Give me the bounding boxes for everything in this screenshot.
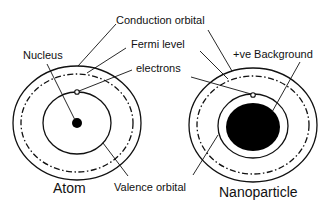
nanoparticle-electron (251, 93, 256, 98)
label-conduction-orbital: Conduction orbital (116, 14, 205, 26)
leader-valence-atom (103, 143, 128, 176)
leader-positive-background (272, 62, 300, 112)
leader-valence-nano (193, 135, 218, 175)
label-valence-orbital: Valence orbital (114, 181, 186, 193)
atom-nucleus (72, 118, 82, 128)
atom-vs-nanoparticle-diagram: Conduction orbital Fermi level electrons… (0, 0, 332, 205)
atom-electron (75, 90, 80, 95)
leader-conduction-nano (208, 30, 232, 71)
leader-fermi-atom (87, 48, 126, 73)
leader-fermi-nano (200, 51, 228, 79)
atom-title: Atom (53, 180, 86, 196)
leader-conduction-atom (78, 24, 116, 66)
nanoparticle-figure (189, 68, 317, 182)
label-nucleus: Nucleus (23, 49, 63, 61)
nanoparticle-title: Nanoparticle (219, 184, 298, 200)
nanoparticle-positive-background (226, 103, 280, 151)
label-electrons: electrons (136, 62, 181, 74)
label-fermi-level: Fermi level (131, 38, 185, 50)
atom-figure (13, 66, 141, 180)
label-positive-background: +ve Background (233, 48, 313, 60)
leader-electrons-nano (191, 77, 251, 94)
leader-electrons-atom (79, 70, 132, 91)
